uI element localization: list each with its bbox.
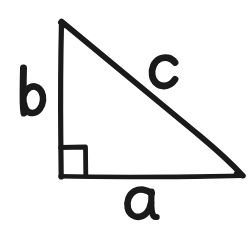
figure-canvas: b c a [0, 0, 252, 225]
bottom-right-tip [236, 174, 244, 177]
triangle-side-vertical [61, 22, 62, 177]
apex-tip [61, 23, 65, 26]
right-angle-marker [61, 147, 86, 176]
triangle-side-hypotenuse [62, 22, 243, 176]
right-angle-square [61, 147, 86, 176]
